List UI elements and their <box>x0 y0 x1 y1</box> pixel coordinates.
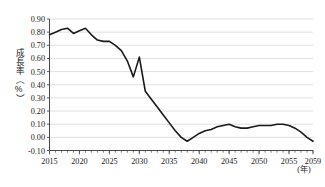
chart-canvas: 0.900.800.700.600.500.400.300.200.100.00… <box>0 0 325 187</box>
y-axis-tick-label: 0.30 <box>31 94 45 103</box>
x-axis-tick-label: 2020 <box>71 157 87 166</box>
growth-rate-line-chart: 成長率（%） 0.900.800.700.600.500.400.300.200… <box>0 0 325 187</box>
y-axis-tick-label: 0.10 <box>31 120 45 129</box>
y-axis-tick-label: 0.40 <box>31 81 45 90</box>
x-axis-tick-label: 2035 <box>161 157 177 166</box>
x-axis-tick-label: 2050 <box>251 157 267 166</box>
y-axis-tick-label: 0.50 <box>31 68 45 77</box>
x-axis-tick-labels: 2015202020252030203520402045205020552059 <box>41 157 321 166</box>
x-axis-tick-label: 2045 <box>221 157 237 166</box>
x-axis-tick-label: 2040 <box>191 157 207 166</box>
y-axis-tick-label: -0.10 <box>28 147 45 156</box>
x-axis-tick-label: 2015 <box>41 157 57 166</box>
y-axis-tick-label: 0.20 <box>31 107 45 116</box>
x-axis-tick-label: 2030 <box>131 157 147 166</box>
y-axis-tick-labels: 0.900.800.700.600.500.400.300.200.100.00… <box>28 15 45 156</box>
y-axis-tick-label: 0.00 <box>31 133 45 142</box>
y-axis-tick-label: 0.60 <box>31 54 45 63</box>
x-axis-tick-label: 2025 <box>101 157 117 166</box>
y-axis-tick-label: 0.70 <box>31 41 45 50</box>
gridlines <box>50 19 314 137</box>
x-axis-tick-label: 2055 <box>281 157 297 166</box>
y-axis-tick-label: 0.80 <box>31 28 45 37</box>
y-axis-tick-label: 0.90 <box>31 15 45 24</box>
x-axis-unit-label: (年) <box>297 164 311 174</box>
